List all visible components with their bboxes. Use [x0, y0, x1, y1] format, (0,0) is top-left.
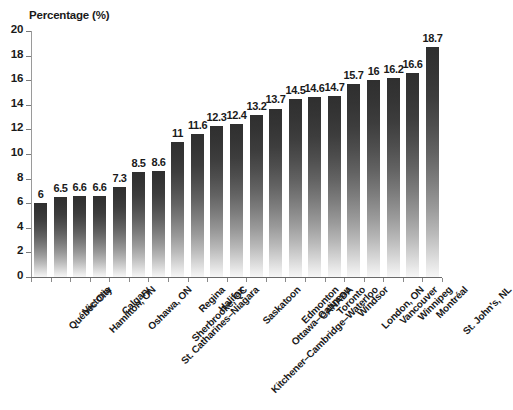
x-axis-tick-mark [246, 278, 247, 282]
bar-value-label: 7.3 [112, 172, 126, 184]
bar-rect [289, 99, 302, 277]
bar [230, 124, 243, 277]
bar-rect [426, 47, 439, 277]
bar [73, 196, 86, 277]
bar-rect [152, 171, 165, 277]
bar-rect [230, 124, 243, 277]
bar-value-label: 6 [38, 188, 44, 200]
x-axis-tick-mark [207, 278, 208, 282]
bar-rect [210, 126, 223, 277]
y-axis-tick-mark [26, 203, 31, 204]
bar-value-label: 6.6 [72, 181, 86, 193]
bar [152, 171, 165, 277]
bar-rect [54, 197, 67, 277]
x-axis-label-text: Victoria [80, 284, 112, 316]
bar-value-label: 12.4 [227, 109, 247, 121]
y-axis-tick-mark [26, 129, 31, 130]
x-axis-tick-mark [70, 278, 71, 282]
bar-rect [191, 134, 204, 277]
bar-rect [93, 196, 106, 277]
bar-value-label: 18.7 [423, 32, 443, 44]
bar-value-label: 14.6 [305, 82, 325, 94]
bar-value-label: 8.5 [131, 157, 145, 169]
y-axis-tick-mark [26, 252, 31, 253]
bar-value-label: 6.6 [92, 181, 106, 193]
y-axis-tick-mark [26, 105, 31, 106]
bar-value-label: 13.7 [266, 93, 286, 105]
bar [191, 134, 204, 277]
x-axis-label-text: Saskatoon [260, 284, 302, 326]
bar [387, 78, 400, 277]
x-axis-tick-mark [422, 278, 423, 282]
y-axis-tick-label: 8 [17, 171, 23, 183]
y-axis-tick-mark [26, 31, 31, 32]
bar-value-label: 13.2 [247, 100, 267, 112]
source-note [28, 399, 448, 410]
bar [210, 126, 223, 277]
x-axis-tick-mark [148, 278, 149, 282]
bar [132, 172, 145, 277]
x-axis-line [31, 277, 442, 278]
x-axis-tick-mark [129, 278, 130, 282]
bar [34, 203, 47, 277]
x-axis-tick-mark [305, 278, 306, 282]
bar-value-label: 15.7 [344, 69, 364, 81]
bar [250, 115, 263, 277]
x-axis-tick-mark [188, 278, 189, 282]
bar-rect [347, 84, 360, 277]
y-axis-tick-label: 10 [11, 146, 23, 158]
bar [426, 47, 439, 277]
bar-value-label: 12.3 [207, 111, 227, 123]
bar-value-label: 14.7 [325, 81, 345, 93]
bar-value-label: 14.5 [286, 84, 306, 96]
bar-rect [406, 73, 419, 277]
bar-rect [328, 96, 341, 277]
x-axis-tick-mark [227, 278, 228, 282]
bar-value-label: 8.6 [151, 156, 165, 168]
bar-rect [171, 142, 184, 277]
x-axis-label: Victoria [80, 284, 112, 316]
y-axis-tick-label: 2 [17, 244, 23, 256]
bar [289, 99, 302, 277]
bar [54, 197, 67, 277]
bar-rect [73, 196, 86, 277]
bar-rect [367, 80, 380, 277]
y-axis-tick-label: 20 [11, 23, 23, 35]
y-axis-tick-label: 12 [11, 121, 23, 133]
y-axis-tick-label: 14 [11, 97, 23, 109]
x-axis-tick-mark [51, 278, 52, 282]
bar-rect [269, 109, 282, 278]
x-axis-tick-mark [325, 278, 326, 282]
x-axis-tick-mark [403, 278, 404, 282]
bar-value-label: 6.5 [53, 182, 67, 194]
y-axis-tick-mark [26, 56, 31, 57]
y-axis-tick-label: 16 [11, 72, 23, 84]
y-axis-tick-mark [26, 154, 31, 155]
bar [328, 96, 341, 277]
bar [113, 187, 126, 277]
bar-value-label: 16.6 [403, 58, 423, 70]
bar [347, 84, 360, 277]
y-axis-tick-label: 18 [11, 48, 23, 60]
bar [308, 97, 321, 277]
x-axis-tick-mark [344, 278, 345, 282]
y-axis-tick-mark [26, 228, 31, 229]
bar [269, 109, 282, 278]
y-axis-line [31, 31, 32, 278]
bar [406, 73, 419, 277]
x-axis-tick-mark [364, 278, 365, 282]
x-axis-tick-mark [109, 278, 110, 282]
x-axis-tick-mark [266, 278, 267, 282]
x-axis-tick-mark [383, 278, 384, 282]
bar [171, 142, 184, 277]
bar-rect [308, 97, 321, 277]
y-axis-tick-mark [26, 179, 31, 180]
bar [367, 80, 380, 277]
y-axis-tick-label: 4 [17, 220, 23, 232]
x-axis-tick-mark [90, 278, 91, 282]
bar-rect [34, 203, 47, 277]
y-axis-tick-label: 6 [17, 195, 23, 207]
bar-value-label: 16.2 [384, 63, 404, 75]
x-axis-tick-mark [442, 278, 443, 282]
